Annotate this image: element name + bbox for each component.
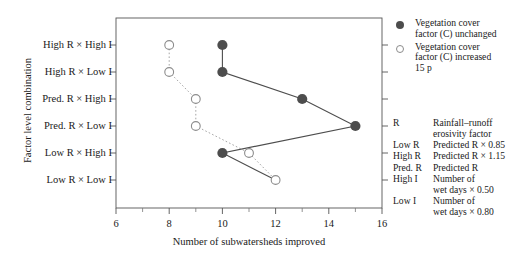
chart-figure: Factor level combination High R × High I… [0,0,532,260]
chart-legend: Vegetation cover factor (C) unchanged Ve… [393,18,532,76]
legend-label: Vegetation cover factor (C) increased 15… [415,42,491,74]
definition-description: Predicted R × 0.85 [433,140,505,151]
x-axis-title: Number of subwatersheds improved [116,236,382,247]
x-tick-label: 10 [217,219,228,230]
definition-term: Low R [393,140,433,151]
definition-row: R Rainfall–runoff erosivity factor [393,118,532,140]
filled-circle-icon [396,21,404,29]
x-tick-label: 6 [113,219,118,230]
legend-marker-cell [393,42,415,53]
definition-term: High I [393,174,433,185]
definition-row: Pred. R Predicted R [393,163,532,174]
legend-marker-cell [393,18,415,29]
x-tick-label: 16 [377,219,388,230]
x-tick-label: 14 [324,219,335,230]
definition-term: R [393,118,433,129]
definition-row: High R Predicted R × 1.15 [393,151,532,162]
definition-description: Predicted R [433,163,478,174]
definition-row: High I Number of wet days × 0.50 [393,174,532,196]
x-tick-label: 12 [270,219,281,230]
factor-definitions: R Rainfall–runoff erosivity factor Low R… [393,118,532,218]
definition-term: Low I [393,196,433,207]
definition-description: Rainfall–runoff erosivity factor [433,118,493,140]
definition-description: Number of wet days × 0.80 [433,196,494,218]
legend-label: Vegetation cover factor (C) unchanged [415,18,497,40]
definition-description: Number of wet days × 0.50 [433,174,494,196]
definition-term: High R [393,151,433,162]
definition-row: Low R Predicted R × 0.85 [393,140,532,151]
legend-item: Vegetation cover factor (C) increased 15… [393,42,532,74]
definition-term: Pred. R [393,163,433,174]
legend-item: Vegetation cover factor (C) unchanged [393,18,532,40]
definition-description: Predicted R × 1.15 [433,151,505,162]
definition-row: Low I Number of wet days × 0.80 [393,196,532,218]
open-circle-icon [396,45,404,53]
x-tick-label: 8 [167,219,172,230]
